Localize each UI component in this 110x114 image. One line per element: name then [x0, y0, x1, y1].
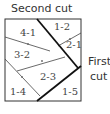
piece-2-3: 2-3	[40, 72, 56, 82]
piece-3-2: 3-2	[14, 50, 30, 60]
seam-dot	[41, 60, 43, 62]
piece-1-5: 1-5	[62, 87, 78, 97]
piece-2-1: 2-1	[66, 40, 82, 50]
piece-4-1: 4-1	[20, 28, 36, 38]
seam-dot	[21, 76, 23, 78]
piece-1-4: 1-4	[10, 87, 26, 97]
seam-dot	[27, 43, 29, 45]
piece-1-2: 1-2	[54, 22, 70, 32]
